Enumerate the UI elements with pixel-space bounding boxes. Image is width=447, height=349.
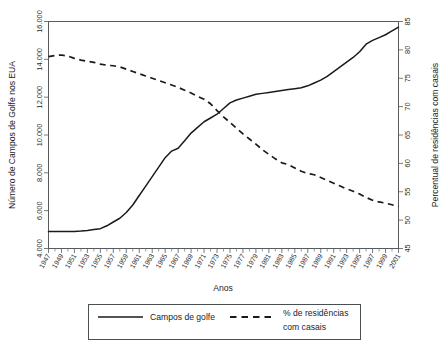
y2-tick-label: 60 — [403, 159, 412, 167]
legend-label-percentual-line1: % de residências — [283, 308, 348, 318]
x-axis-title: Anos — [213, 283, 233, 293]
y2-tick-label: 75 — [403, 74, 412, 82]
y2-tick-label: 45 — [403, 244, 412, 252]
y2-tick-label: 80 — [403, 46, 412, 54]
y-tick-label: 6.000 — [35, 201, 44, 220]
y-tick-label: 8.000 — [35, 164, 44, 183]
y-tick-label: 4.000 — [35, 239, 44, 258]
y-tick-label: 10.000 — [35, 124, 44, 147]
y-axis-left-title: Número de Campos de Golfe nos EUA — [7, 61, 17, 209]
y-axis-right-title: Percentual de residências com casais — [430, 63, 440, 207]
y2-tick-label: 55 — [403, 188, 412, 196]
legend-label-percentual-line2: com casais — [283, 322, 326, 332]
chart-background — [0, 0, 447, 349]
chart-legend: Campos de golfe % de residências com cas… — [89, 305, 361, 340]
y-tick-label: 16.000 — [35, 10, 44, 33]
legend-label-campos-de-golfe: Campos de golfe — [150, 312, 215, 322]
y-tick-label: 12.000 — [35, 86, 44, 109]
y2-tick-label: 50 — [403, 216, 412, 224]
y-tick-label: 14.000 — [35, 48, 44, 71]
y-axis-right-tick-labels: 455055606570758085 — [403, 17, 412, 252]
y2-tick-label: 65 — [403, 131, 412, 139]
y2-tick-label: 85 — [403, 17, 412, 25]
y2-tick-label: 70 — [403, 103, 412, 111]
line-chart: 1947194919511953195519571959196119631965… — [0, 0, 447, 349]
chart-figure: 1947194919511953195519571959196119631965… — [0, 0, 447, 349]
